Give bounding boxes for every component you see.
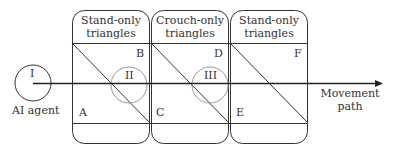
region-2-title-line1: Crouch-only <box>151 14 229 27</box>
point-F: F <box>294 48 302 60</box>
point-E: E <box>236 107 244 119</box>
point-A: A <box>79 107 87 119</box>
region-1-title-line2: triangles <box>72 27 150 40</box>
region-3-title-line1: Stand-only <box>230 14 308 27</box>
region-2-title-line2: triangles <box>151 27 229 40</box>
region-3-title-line2: triangles <box>230 27 308 40</box>
movement-path-label-line1: Movement <box>320 87 380 100</box>
point-C: C <box>156 107 164 119</box>
point-B: B <box>136 48 144 60</box>
arrowhead-icon <box>375 80 383 87</box>
region-1-title-line1: Stand-only <box>72 14 150 27</box>
agent-numeral: I <box>30 68 34 80</box>
agent-label: AI agent <box>12 104 54 117</box>
circle-III-label: III <box>204 70 217 82</box>
circle-II-label: II <box>125 70 134 82</box>
movement-path-label-line2: path <box>320 100 380 113</box>
point-D: D <box>214 48 223 60</box>
